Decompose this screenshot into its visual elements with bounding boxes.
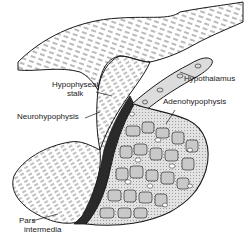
- label-pars-intermedia: Pars intermedia: [19, 216, 61, 234]
- label-hypophyseal-stalk-line2: stalk: [52, 89, 98, 98]
- label-hypothalamus: Hypothalamus: [184, 74, 235, 83]
- label-neurohypophysis: Neurohypophysis: [17, 112, 79, 121]
- label-hypophyseal-stalk: Hypophyseal stalk: [52, 80, 98, 98]
- label-adenohypophysis: Adenohypophysis: [163, 97, 226, 106]
- pituitary-diagram: [0, 0, 251, 246]
- label-pars-intermedia-line2: intermedia: [19, 225, 61, 234]
- label-hypophyseal-stalk-line1: Hypophyseal: [52, 80, 98, 89]
- label-pars-intermedia-line1: Pars: [19, 216, 61, 225]
